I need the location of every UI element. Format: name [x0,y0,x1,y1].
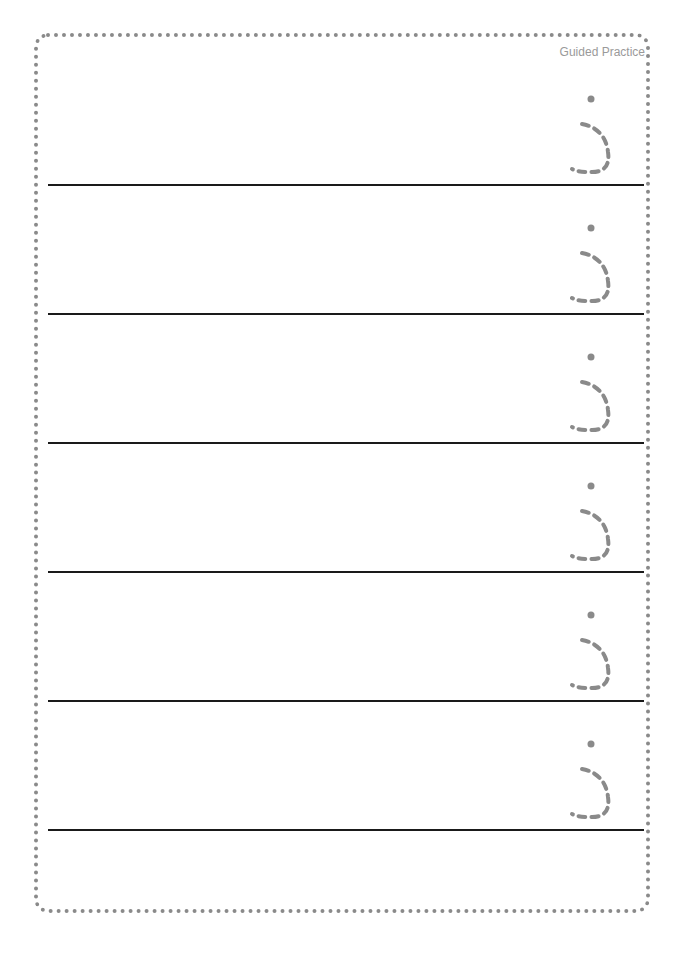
dashed-letter-dhal-icon [544,344,614,444]
practice-row [48,56,644,186]
practice-row [48,701,644,831]
dashed-letter-dhal-icon [544,473,614,573]
practice-row [48,314,644,444]
dashed-letter-dhal-icon [544,602,614,702]
dashed-letter-dhal-icon [544,86,614,186]
dashed-letter-dhal-icon [544,731,614,831]
practice-row [48,185,644,315]
writing-baseline [48,829,644,831]
practice-row [48,572,644,702]
practice-row [48,443,644,573]
dashed-letter-dhal-icon [544,215,614,315]
